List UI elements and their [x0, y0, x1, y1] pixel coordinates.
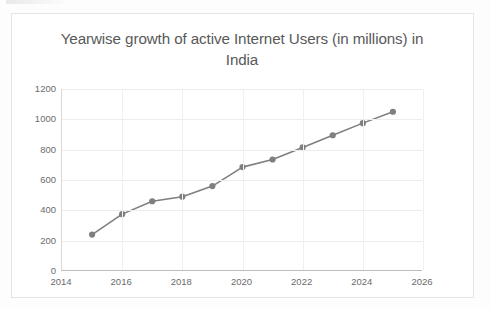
scan-artifact [6, 0, 66, 4]
y-axis-tick-label: 200 [12, 236, 56, 246]
chart-container: Yearwise growth of active Internet Users… [11, 13, 474, 298]
x-axis-tick-label: 2014 [36, 276, 86, 287]
data-point[interactable] [330, 132, 336, 138]
x-axis-tick-label: 2018 [156, 276, 206, 287]
gridline-vertical [243, 89, 244, 270]
plot-area [61, 89, 422, 271]
gridline-vertical [303, 89, 304, 270]
page-background: Yearwise growth of active Internet Users… [0, 0, 491, 309]
x-axis-tick-label: 2016 [96, 276, 146, 287]
gridline-vertical [363, 89, 364, 270]
y-axis-tick-label: 1000 [12, 114, 56, 124]
x-axis-tick-labels: 2014201620182020202220242026 [61, 276, 422, 292]
y-axis-tick-label: 800 [12, 145, 56, 155]
data-point[interactable] [209, 183, 215, 189]
y-axis-tick-label: 0 [12, 266, 56, 276]
y-axis-tick-label: 400 [12, 205, 56, 215]
data-point[interactable] [269, 156, 275, 162]
gridline-vertical [423, 89, 424, 270]
x-axis-tick-label: 2022 [277, 276, 327, 287]
y-axis-tick-labels: 020040060080010001200 [12, 89, 56, 271]
chart-title: Yearwise growth of active Internet Users… [52, 28, 432, 70]
chart-title-line-1: Yearwise growth of active Internet Users… [61, 30, 349, 47]
x-axis-tick-label: 2020 [217, 276, 267, 287]
data-point[interactable] [390, 109, 396, 115]
y-axis-tick-label: 600 [12, 175, 56, 185]
x-axis-tick-label: 2026 [397, 276, 447, 287]
data-point[interactable] [89, 232, 95, 238]
gridline-vertical [122, 89, 123, 270]
data-point[interactable] [149, 198, 155, 204]
x-axis-tick-label: 2024 [337, 276, 387, 287]
gridline-horizontal [62, 271, 422, 272]
y-axis-tick-label: 1200 [12, 84, 56, 94]
gridline-vertical [182, 89, 183, 270]
